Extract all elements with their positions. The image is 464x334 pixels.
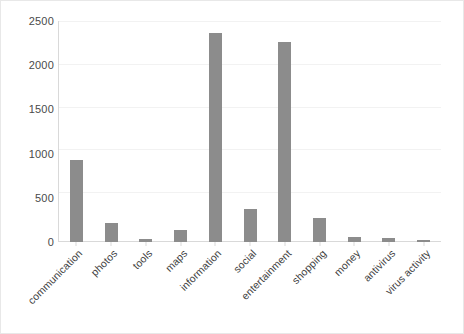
y-tick-label: 2500 [6, 15, 54, 27]
x-tick-label: photos [88, 247, 119, 278]
bar-slot [233, 21, 268, 242]
x-tick-mark [145, 242, 146, 246]
y-axis: 05001000150020002500 [1, 21, 54, 242]
x-label-slot: entertainment [267, 247, 302, 333]
x-axis-labels: communicationphotostoolsmapsinformations… [59, 247, 441, 333]
y-tick-label: 1000 [6, 148, 54, 160]
x-tick-label: maps [162, 247, 189, 274]
x-label-slot: virus activity [406, 247, 441, 333]
x-tick-label: tools [130, 247, 155, 272]
bar-slot [302, 21, 337, 242]
bar[interactable] [244, 209, 257, 242]
bar[interactable] [105, 223, 118, 242]
x-label-slot: tools [128, 247, 163, 333]
x-label-slot: communication [59, 247, 94, 333]
bar[interactable] [174, 230, 187, 242]
bar-slot [128, 21, 163, 242]
y-tick-label: 500 [6, 192, 54, 204]
bar-slot [372, 21, 407, 242]
bar-slot [337, 21, 372, 242]
x-tick-mark [250, 242, 251, 246]
bar[interactable] [313, 218, 326, 242]
x-label-slot: information [198, 247, 233, 333]
bar[interactable] [70, 160, 83, 242]
x-tick-mark [76, 242, 77, 246]
x-tick-mark [284, 242, 285, 246]
y-tick-label: 2000 [6, 59, 54, 71]
bar-slot [59, 21, 94, 242]
x-tick-mark [180, 242, 181, 246]
x-tick-label: social [231, 247, 259, 275]
x-tick-mark [319, 242, 320, 246]
x-label-slot: money [337, 247, 372, 333]
y-tick-label: 0 [6, 236, 54, 248]
bar-slot [267, 21, 302, 242]
x-tick-label: money [332, 247, 363, 278]
x-tick-mark [388, 242, 389, 246]
x-tick-label: communication [26, 247, 85, 306]
x-tick-mark [111, 242, 112, 246]
x-tick-mark [354, 242, 355, 246]
x-label-slot: photos [94, 247, 129, 333]
bar-slot [163, 21, 198, 242]
bar-slot [94, 21, 129, 242]
y-tick-label: 1500 [6, 103, 54, 115]
bar[interactable] [278, 42, 291, 242]
bar[interactable] [209, 33, 222, 242]
x-label-slot: maps [163, 247, 198, 333]
bar-slot [406, 21, 441, 242]
x-label-slot: shopping [302, 247, 337, 333]
bar-chart: 05001000150020002500 communicationphotos… [0, 0, 464, 334]
bar-slot [198, 21, 233, 242]
x-tick-mark [215, 242, 216, 246]
bar-series [59, 21, 441, 242]
